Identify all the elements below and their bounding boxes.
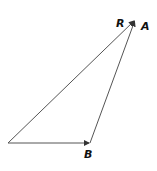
diagram-svg: R A B: [0, 0, 157, 171]
vector-diagram: R A B: [0, 0, 157, 171]
label-b: B: [84, 148, 92, 161]
label-r: R: [116, 17, 124, 30]
vector-r-arrow: [8, 21, 134, 143]
vector-a-arrow: [90, 22, 135, 144]
label-a: A: [140, 20, 150, 33]
